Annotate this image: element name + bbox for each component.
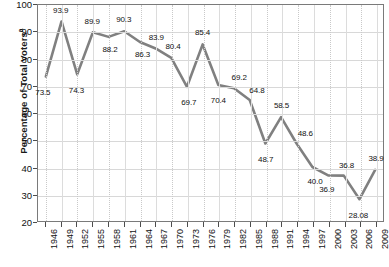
- data-point-label: 48.6: [298, 129, 313, 138]
- data-point-label: 74.3: [69, 86, 84, 95]
- data-point-label: 85.4: [195, 27, 210, 36]
- data-point-label: 36.9: [319, 184, 334, 193]
- data-point-label: 48.7: [258, 154, 273, 163]
- data-point-label: 90.3: [116, 15, 131, 24]
- data-point-label: 70.4: [211, 95, 226, 104]
- data-point-label: 83.9: [149, 32, 164, 41]
- data-point-label: 58.5: [274, 101, 289, 110]
- data-point-label: 93.9: [53, 5, 68, 14]
- data-point-label: 89.9: [85, 16, 100, 25]
- data-point-label: 73.5: [35, 88, 50, 97]
- data-point-label: 64.8: [249, 85, 264, 94]
- voter-turnout-line-chart: Percentage of Total Votersa 203040506070…: [0, 0, 389, 267]
- data-point-label: 80.4: [165, 42, 180, 51]
- data-point-label: 86.3: [135, 50, 150, 59]
- data-point-label: 88.2: [102, 45, 117, 54]
- data-point-label: 28.08: [349, 210, 369, 219]
- data-label-layer: 73.593.974.389.988.290.386.383.980.469.7…: [0, 0, 389, 267]
- data-point-label: 69.2: [232, 72, 247, 81]
- data-point-label: 38.9: [369, 154, 384, 163]
- data-point-label: 69.7: [181, 97, 196, 106]
- data-point-label: 36.8: [339, 161, 354, 170]
